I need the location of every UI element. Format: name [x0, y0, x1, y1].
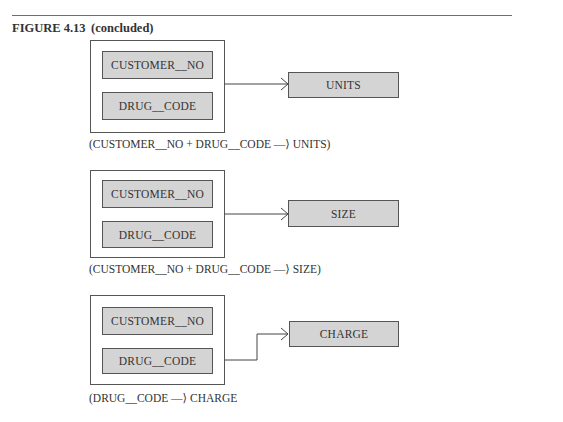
- attribute-customer-no-3: CUSTOMER__NO: [102, 307, 213, 335]
- attribute-charge: CHARGE: [289, 321, 399, 347]
- arrow-units: [224, 78, 288, 90]
- caption-size: (CUSTOMER__NO + DRUG__CODE —⟩ SIZE): [89, 262, 321, 276]
- arrow-size: [224, 208, 288, 220]
- attribute-drug-code-3: DRUG__CODE: [102, 348, 213, 374]
- attribute-customer-no-1: CUSTOMER__NO: [102, 51, 213, 79]
- attribute-drug-code-2: DRUG__CODE: [102, 221, 213, 248]
- caption-charge: (DRUG__CODE —⟩ CHARGE: [89, 391, 237, 405]
- attribute-size: SIZE: [288, 200, 399, 227]
- arrows-layer: [0, 0, 563, 422]
- attribute-drug-code-1: DRUG__CODE: [102, 92, 213, 120]
- attribute-customer-no-2: CUSTOMER__NO: [102, 180, 213, 208]
- attribute-units: UNITS: [288, 72, 399, 98]
- caption-units: (CUSTOMER__NO + DRUG__CODE —⟩ UNITS): [89, 137, 330, 151]
